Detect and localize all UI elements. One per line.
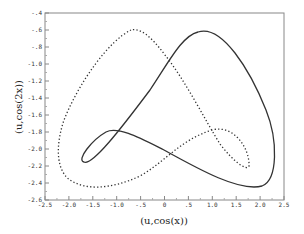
y-tick-label: -.6	[31, 26, 42, 33]
chart: -2.5-2.0-1.5-1.0-.50.51.01.52.02.5 -.4-.…	[0, 0, 304, 234]
x-tick-label: -1.5	[86, 201, 101, 208]
x-tick-label: -1.0	[109, 201, 124, 208]
x-tick-label: 2.0	[255, 201, 266, 208]
y-axis-ticks: -.4-.6-.8-1.0-1.2-1.4-1.6-1.8-2.0-2.2-2.…	[28, 9, 49, 203]
x-tick-label: .5	[185, 201, 193, 208]
y-tick-label: -.8	[31, 43, 42, 50]
y-tick-label: -2.0	[28, 145, 43, 152]
x-axis-ticks: -2.5-2.0-1.5-1.0-.50.51.01.52.02.5	[38, 196, 290, 208]
y-axis-label: (u,cos(2x))	[13, 80, 24, 134]
x-tick-label: 1.5	[231, 201, 242, 208]
x-tick-label: 1.0	[207, 201, 218, 208]
y-tick-label: -2.2	[28, 162, 43, 169]
plot-frame	[45, 13, 284, 200]
x-axis-label: (u,cos(x))	[140, 215, 188, 226]
x-tick-label: 0	[163, 201, 167, 208]
solid-curve	[82, 31, 275, 187]
y-tick-label: -2.6	[28, 196, 43, 203]
y-tick-label: -1.0	[28, 60, 43, 67]
y-tick-label: -.4	[31, 9, 42, 16]
x-tick-label: -2.0	[62, 201, 77, 208]
y-tick-label: -1.6	[28, 111, 43, 118]
y-tick-label: -1.4	[28, 94, 43, 101]
y-tick-label: -2.4	[28, 179, 43, 186]
x-tick-label: 2.5	[279, 201, 290, 208]
x-tick-label: -.5	[135, 201, 146, 208]
y-tick-label: -1.2	[28, 77, 43, 84]
y-tick-label: -1.8	[28, 128, 43, 135]
dotted-curve	[58, 30, 249, 187]
